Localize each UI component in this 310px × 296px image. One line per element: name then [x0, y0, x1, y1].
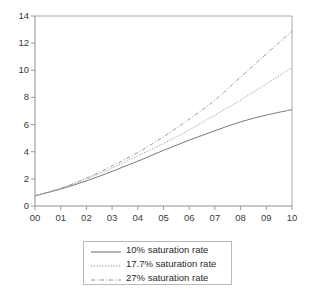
x-tick-label: 05	[154, 213, 174, 223]
x-axis-ticks	[35, 206, 292, 210]
x-tick-label: 06	[179, 213, 199, 223]
y-axis-ticks	[31, 16, 35, 206]
x-tick-label: 07	[205, 213, 225, 223]
y-tick-label: 2	[7, 174, 29, 184]
y-tick-label: 10	[7, 65, 29, 75]
x-tick-label: 04	[128, 213, 148, 223]
chart-legend: 10% saturation rate 17.7% saturation rat…	[83, 241, 232, 285]
x-tick-label: 00	[25, 213, 45, 223]
legend-line-dotted-icon	[91, 258, 121, 270]
x-tick-label: 08	[231, 213, 251, 223]
y-tick-label: 8	[7, 92, 29, 102]
y-tick-label: 6	[7, 120, 29, 130]
y-tick-label: 4	[7, 147, 29, 157]
data-series-line	[35, 31, 292, 196]
data-series-group	[35, 31, 292, 196]
data-series-line	[35, 110, 292, 196]
legend-item: 17.7% saturation rate	[84, 257, 231, 270]
legend-item: 27% saturation rate	[84, 271, 231, 284]
y-tick-label: 0	[7, 201, 29, 211]
legend-item-label: 27% saturation rate	[126, 272, 208, 283]
legend-item-label: 17.7% saturation rate	[126, 258, 216, 269]
chart-figure: 02468101214 0001020304050607080910 10% s…	[0, 0, 310, 296]
legend-item: 10% saturation rate	[84, 243, 231, 256]
x-tick-label: 03	[102, 213, 122, 223]
legend-item-label: 10% saturation rate	[126, 244, 208, 255]
data-series-line	[35, 68, 292, 196]
x-tick-label: 01	[51, 213, 71, 223]
legend-line-solid-icon	[91, 244, 121, 256]
y-tick-label: 12	[7, 38, 29, 48]
plot-frame	[35, 16, 292, 206]
y-tick-label: 14	[7, 11, 29, 21]
x-tick-label: 02	[76, 213, 96, 223]
x-tick-label: 10	[282, 213, 302, 223]
x-tick-label: 09	[256, 213, 276, 223]
legend-line-dashdot-icon	[91, 272, 121, 284]
